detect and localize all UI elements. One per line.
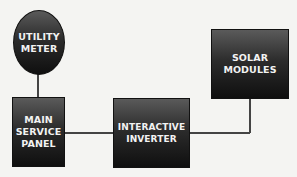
edge-inverter-to-solar-h: [189, 132, 250, 134]
edge-meter-to-panel: [37, 74, 39, 98]
edge-panel-to-inverter: [64, 132, 114, 134]
utility-meter-label-line-2: METER: [18, 43, 59, 55]
utility-meter-node: UTILITY METER: [13, 10, 65, 75]
main-service-panel-label-line-2: SERVICE: [16, 126, 62, 138]
solar-modules-label-line-2: MODULES: [223, 64, 276, 76]
utility-meter-label-line-1: UTILITY: [18, 31, 59, 43]
solar-modules-node: SOLAR MODULES: [211, 29, 289, 99]
main-service-panel-node: MAIN SERVICE PANEL: [12, 97, 65, 167]
interactive-inverter-label-line-1: INTERACTIVE: [118, 121, 185, 133]
main-service-panel-label-line-1: MAIN: [16, 114, 62, 126]
main-service-panel-label-line-3: PANEL: [16, 138, 62, 150]
interactive-inverter-label-line-2: INVERTER: [118, 133, 185, 145]
edge-inverter-to-solar-v: [249, 98, 251, 133]
interactive-inverter-node: INTERACTIVE INVERTER: [113, 98, 190, 168]
solar-modules-label-line-1: SOLAR: [223, 52, 276, 64]
